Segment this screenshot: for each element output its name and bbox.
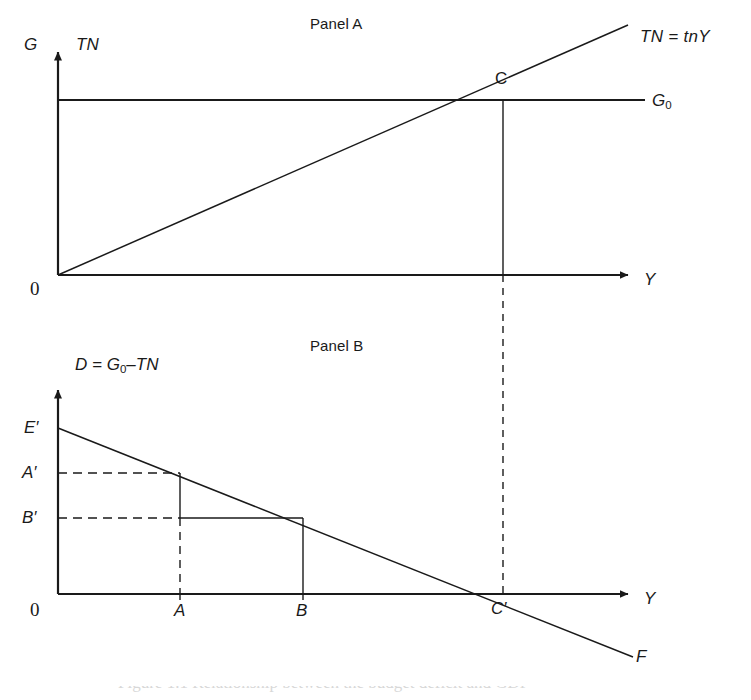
panel-a-y-axis-label-tn: TN [76,36,99,53]
panel-b-x-axis-label: Y [644,590,655,607]
panel-b-origin-label: 0 [30,600,40,619]
panel-a-y-axis-label-g: G [24,36,37,53]
figure-caption-text: Figure 1.1 Relationship between the budg… [118,686,529,693]
panel-b-line-end-label: F [636,648,646,665]
panel-b-tick-b-label: B [296,602,307,619]
panel-b-y-axis-label-tail: –TN [126,355,158,374]
panel-b-graphics [58,326,633,657]
panel-a-g0-label-sub: 0 [665,99,671,111]
panel-b-level-a-label: A′ [22,464,37,481]
panel-b-level-b-label: B′ [22,509,37,526]
panel-a-point-c-label: C [495,70,507,87]
panel-a-tn-line [58,25,628,275]
figure-graphics [0,0,751,700]
panel-a-graphics [58,25,645,322]
panel-b-y-axis-label: D = G0–TN [75,356,158,375]
panel-b-deficit-line [58,428,633,657]
panel-a-title: Panel A [310,16,362,31]
figure-root: Panel A G TN TN = tnY G0 C 0 Y Panel B D… [0,0,751,700]
panel-b-y-axis-label-main: D = G [75,355,120,374]
panel-b-tick-a-label: A [174,602,185,619]
panel-a-g0-line-label: G0 [652,92,672,111]
panel-b-title: Panel B [310,338,363,353]
figure-caption-strip: Figure 1.1 Relationship between the budg… [0,686,751,700]
panel-a-origin-label: 0 [30,279,40,298]
panel-a-x-axis-label: Y [644,271,655,288]
panel-a-g0-label-main: G [652,91,665,110]
panel-b-zero-crossing-label: C′ [491,600,506,617]
panel-b-intercept-label: E′ [24,419,39,436]
panel-a-tn-line-label: TN = tnY [640,28,710,45]
